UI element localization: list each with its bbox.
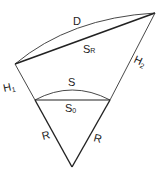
line-h2	[110, 13, 155, 100]
label-r-right: R	[92, 131, 103, 145]
chord-sr	[15, 13, 155, 64]
label-sr: SR	[83, 43, 95, 55]
arc-s	[35, 90, 110, 100]
label-s: S	[68, 76, 75, 88]
line-h1	[15, 64, 35, 100]
label-s0: S0	[65, 102, 76, 114]
label-r-left: R	[40, 128, 51, 142]
label-h2: H2	[132, 53, 148, 70]
geodesic-reduction-diagram: D SR H1 H2 S S0 R R	[0, 0, 161, 178]
label-d: D	[73, 15, 81, 27]
radius-right	[72, 100, 110, 167]
label-h1: H1	[2, 80, 16, 95]
